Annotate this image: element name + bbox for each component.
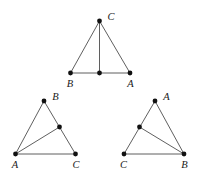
- geometry-figure-canvas: CBABACACB: [0, 0, 205, 174]
- top-triangle-vertex-dot-A: [128, 71, 133, 76]
- bottom-right-triangle-vertex-label-C: C: [120, 159, 128, 170]
- top-triangle-vertex-label-B: B: [67, 78, 74, 89]
- bottom-right-triangle-edge-BA: [155, 101, 184, 154]
- top-triangle-edge-AC: [100, 21, 131, 73]
- bottom-right-triangle-vertex-dot-C: [122, 152, 127, 157]
- bottom-left-triangle-vertex-label-C: C: [72, 159, 80, 170]
- bottom-left-triangle-edge-BA: [16, 101, 45, 154]
- bottom-left-triangle-vertex-label-A: A: [11, 159, 19, 170]
- bottom-left-triangle-vertex-dot-B: [42, 99, 47, 104]
- geometry-figure: CBABACACB: [0, 0, 205, 174]
- bottom-right-triangle-vertex-label-A: A: [162, 91, 170, 102]
- bottom-right-triangle-cevian-B: [140, 127, 185, 154]
- top-triangle-vertex-label-A: A: [126, 78, 134, 89]
- bottom-right-triangle-vertex-dot-B: [182, 152, 187, 157]
- top-triangle-marked-point-dot: [97, 71, 102, 76]
- bottom-left-triangle-vertex-dot-A: [13, 152, 18, 157]
- top-triangle-vertex-dot-B: [68, 71, 73, 76]
- top-triangle-vertex-dot-C: [97, 19, 102, 24]
- bottom-right-triangle-vertex-label-B: B: [181, 159, 188, 170]
- triangles-group: CBABACACB: [11, 11, 189, 171]
- top-triangle-vertex-label-C: C: [107, 11, 115, 22]
- bottom-left-triangle-vertex-label-B: B: [52, 91, 59, 102]
- bottom-left-triangle-vertex-dot-C: [73, 152, 78, 157]
- bottom-right-triangle: ACB: [120, 91, 188, 171]
- bottom-left-triangle-cevian-A: [16, 127, 60, 154]
- bottom-right-triangle-vertex-dot-A: [153, 99, 158, 104]
- bottom-left-triangle: BAC: [11, 91, 81, 171]
- top-triangle: CBA: [67, 11, 135, 90]
- bottom-left-triangle-marked-point-dot: [57, 125, 62, 130]
- bottom-right-triangle-marked-point-dot: [137, 125, 142, 130]
- top-triangle-edge-CB: [71, 21, 100, 73]
